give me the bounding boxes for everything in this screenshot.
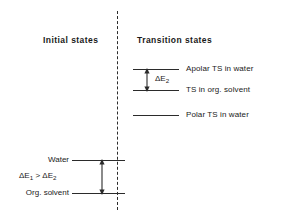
- delta-e1-subscript: 1: [30, 174, 33, 181]
- comparator-symbol: >: [35, 171, 40, 180]
- delta-e2-symbol: ΔE: [155, 74, 166, 83]
- level-label-polar-ts-water: Polar TS in water: [186, 110, 249, 119]
- level-line-ts-org-solvent: [133, 90, 179, 91]
- delta-e1-symbol: ΔE: [19, 171, 30, 180]
- delta-e1-comparison-label: ΔE1 > ΔE2: [19, 171, 56, 180]
- section-divider: [117, 11, 118, 210]
- delta-e2-subscript: 2: [166, 77, 169, 84]
- level-label-water: Water: [48, 155, 69, 164]
- transition-states-heading: Transition states: [137, 35, 212, 45]
- compared-delta-symbol: ΔE: [42, 171, 53, 180]
- level-line-apolar-ts-water: [133, 69, 179, 70]
- delta-e2-gap-arrow: [142, 67, 152, 93]
- compared-delta-subscript: 2: [53, 174, 56, 181]
- level-label-org-solvent: Org. solvent: [26, 188, 69, 197]
- energy-level-diagram: Initial states Transition states Apolar …: [0, 0, 281, 224]
- delta-e2-label: ΔE2: [155, 74, 169, 83]
- initial-states-heading: Initial states: [43, 35, 98, 45]
- level-label-ts-org-solvent: TS in org. solvent: [186, 85, 250, 94]
- delta-e1-gap-arrow: [97, 158, 107, 196]
- level-label-apolar-ts-water: Apolar TS in water: [186, 64, 253, 73]
- level-line-polar-ts-water: [133, 115, 179, 116]
